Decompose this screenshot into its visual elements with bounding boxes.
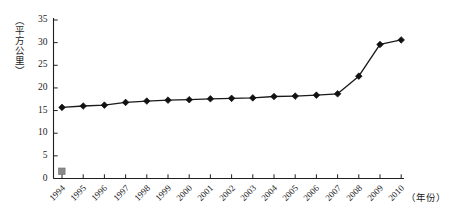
data-point-marker	[122, 99, 129, 106]
data-point-marker	[398, 37, 405, 44]
data-point-marker	[165, 97, 172, 104]
legend-square-swatch	[59, 168, 66, 175]
plot-area	[0, 0, 454, 219]
data-point-marker	[186, 96, 193, 103]
data-point-marker	[101, 102, 108, 109]
legend-marker	[59, 168, 66, 175]
data-point-marker	[207, 95, 214, 102]
chart-container: （平方公里） （年份） 35302520151050 1994199519961…	[0, 0, 454, 219]
data-point-marker	[250, 95, 257, 102]
data-point-markers	[59, 37, 405, 111]
data-point-marker	[313, 92, 320, 99]
data-point-marker	[80, 103, 87, 110]
data-point-marker	[228, 95, 235, 102]
data-point-marker	[292, 93, 299, 100]
data-point-marker	[59, 104, 66, 111]
data-point-marker	[144, 98, 151, 105]
data-point-marker	[271, 93, 278, 100]
